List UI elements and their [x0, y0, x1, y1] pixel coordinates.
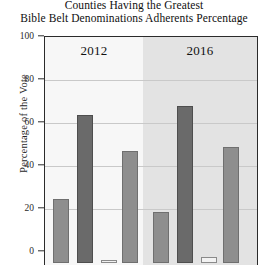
plot-area: 2012 2016	[44, 36, 258, 265]
bar-2016-2	[177, 106, 193, 263]
bars-layer	[45, 37, 257, 265]
y-tick-label-20: 20	[25, 203, 35, 213]
bar-2012-4	[122, 151, 138, 263]
y-tick-label-80: 80	[25, 74, 35, 84]
bar-2016-3	[201, 257, 217, 263]
bar-2012-2	[77, 115, 93, 263]
bar-2016-1	[153, 212, 169, 263]
y-axis: Percentage of the Vote 100 80 60 40 20 0	[0, 0, 44, 265]
y-tick-label-100: 100	[20, 31, 34, 41]
y-tick-label-40: 40	[25, 160, 35, 170]
bar-2016-4	[223, 147, 239, 263]
y-tick-label-60: 60	[25, 117, 35, 127]
chart-figure: Counties Having the Greatest Bible Belt …	[0, 0, 268, 265]
y-tick-label-0: 0	[29, 246, 34, 256]
bar-2012-3	[101, 260, 117, 263]
bar-2012-1	[53, 199, 69, 264]
